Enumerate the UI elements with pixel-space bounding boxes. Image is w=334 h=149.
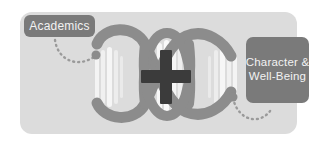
infographic-root: Academics Character & Well-Being [0,0,334,149]
tag-character-well-being[interactable]: Character & Well-Being [246,37,309,103]
academics-connector-dots [55,40,95,62]
tag-character-label-line-2: Well-Being [249,70,306,84]
tag-academics[interactable]: Academics [24,15,95,37]
character-connector-endpoint [229,93,238,102]
academics-connector-endpoint [92,51,101,60]
tag-character-label-line-1: Character & [246,56,310,70]
tag-academics-label: Academics [29,19,90,33]
